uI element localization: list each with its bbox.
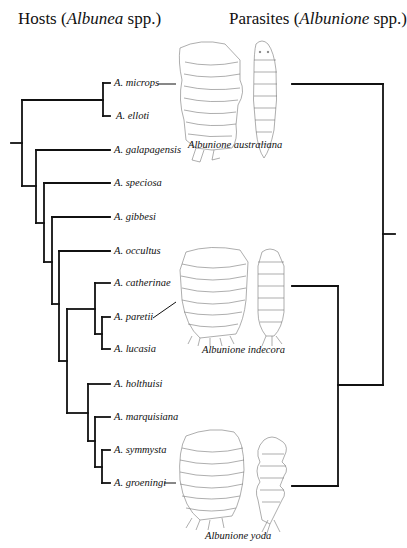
host-taxon-lucasia: A. lucasia — [114, 343, 156, 355]
host-taxon-marquisiana: A. marquisiana — [114, 411, 178, 423]
host-taxon-paretii: A. paretii — [114, 311, 153, 323]
drawing-albunione-yoda — [180, 430, 287, 536]
parasite-caption-yoda: Albunione yoda — [205, 530, 271, 541]
host-taxon-elloti: A. elloti — [116, 110, 149, 122]
host-taxon-galapagensis: A. galapagensis — [114, 144, 181, 156]
host-taxon-catherinae: A. catherinae — [114, 277, 171, 289]
host-taxon-holthuisi: A. holthuisi — [114, 378, 162, 390]
host-taxon-microps: A. microps — [114, 77, 159, 89]
parasite-tree — [292, 84, 395, 486]
host-taxon-groeningi: A. groeningi — [114, 477, 166, 489]
host-taxon-speciosa: A. speciosa — [114, 177, 162, 189]
parasite-caption-australiana: Albunione australiana — [188, 139, 282, 150]
host-taxon-symmysta: A. symmysta — [114, 444, 167, 456]
host-taxon-occultus: A. occultus — [114, 245, 161, 257]
host-tree — [11, 83, 110, 483]
drawing-albunione-indecora — [180, 247, 284, 346]
parasite-caption-indecora: Albunione indecora — [202, 344, 285, 355]
host-taxon-gibbesi: A. gibbesi — [114, 211, 156, 223]
